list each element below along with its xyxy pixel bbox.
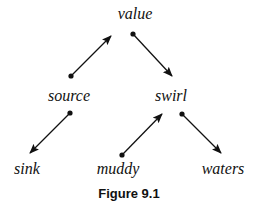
arrow-muddy-to-swirl xyxy=(122,114,162,155)
arrow-swirl-to-waters xyxy=(182,114,221,153)
arrow-tail-dot-icon xyxy=(119,152,124,157)
arrow-tail-dot-icon xyxy=(179,111,184,116)
node-value: value xyxy=(118,5,153,23)
diagram-canvas: value source swirl sink muddy waters Fig… xyxy=(0,0,258,208)
node-swirl: swirl xyxy=(155,87,187,105)
node-source: source xyxy=(48,87,90,105)
arrow-source-to-value xyxy=(71,36,111,76)
figure-caption: Figure 9.1 xyxy=(98,186,159,201)
arrow-tail-dot-icon xyxy=(68,73,73,78)
arrow-tail-dot-icon xyxy=(67,110,72,115)
arrow-source-to-sink xyxy=(30,113,70,153)
arrow-tail-dot-icon xyxy=(130,31,135,36)
node-sink: sink xyxy=(14,160,40,178)
arrow-value-to-swirl xyxy=(133,34,172,76)
node-muddy: muddy xyxy=(97,160,140,178)
node-waters: waters xyxy=(202,160,245,178)
